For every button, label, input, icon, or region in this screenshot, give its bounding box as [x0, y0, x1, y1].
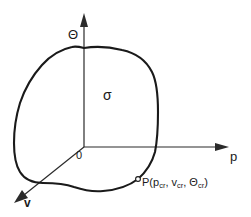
figure-canvas: Θ p v 0 σ P(pcr, vcr, Θcr) — [0, 0, 251, 217]
theta-axis-arrowhead — [80, 13, 88, 27]
sigma-surface-boundary — [14, 47, 158, 192]
critical-point-subscript-p: cr — [159, 181, 165, 190]
theta-axis-label: Θ — [68, 28, 78, 41]
critical-point-marker — [136, 177, 141, 182]
critical-point-mid-v: , v — [165, 176, 177, 188]
critical-point-prefix: P(p — [142, 176, 159, 188]
p-axis-label: p — [230, 150, 237, 163]
figure-drawing — [0, 0, 251, 217]
sigma-region-label: σ — [103, 88, 112, 102]
critical-point-label: P(pcr, vcr, Θcr) — [142, 177, 208, 188]
origin-label: 0 — [76, 150, 82, 161]
p-axis-arrowhead — [215, 143, 229, 151]
critical-point-subscript-v: cr — [177, 181, 183, 190]
critical-point-suffix: ) — [204, 176, 208, 188]
v-axis-label: v — [24, 197, 31, 209]
critical-point-subscript-theta: cr — [198, 181, 204, 190]
critical-point-mid-theta: , Θ — [183, 176, 198, 188]
